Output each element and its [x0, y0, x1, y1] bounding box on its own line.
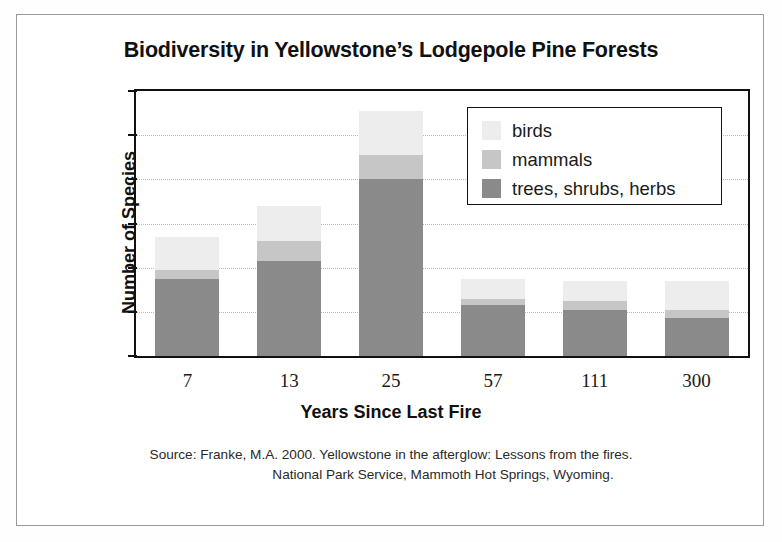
y-axis-tick-mark: [128, 134, 137, 136]
bar-segment-trees[interactable]: [155, 279, 219, 356]
bar-segment-trees[interactable]: [563, 310, 627, 356]
bar-segment-trees[interactable]: [257, 261, 321, 356]
chart-legend: birdsmammalstrees, shrubs, herbs: [467, 107, 722, 205]
bar-segment-mammals[interactable]: [257, 241, 321, 261]
y-axis-tick-mark: [128, 223, 137, 225]
bar-group[interactable]: [257, 91, 321, 356]
y-axis-tick-mark: [128, 178, 137, 180]
x-axis-tick-label: 57: [453, 370, 533, 392]
bar-segment-birds[interactable]: [359, 111, 423, 155]
bar-segment-trees[interactable]: [665, 318, 729, 356]
bar-segment-birds[interactable]: [257, 206, 321, 241]
bar-segment-mammals[interactable]: [359, 155, 423, 179]
legend-label: birds: [512, 120, 552, 142]
bar-segment-birds[interactable]: [563, 281, 627, 301]
legend-label: trees, shrubs, herbs: [512, 178, 676, 200]
source-line-1: Source: Franke, M.A. 2000. Yellowstone i…: [150, 447, 633, 462]
bar-segment-mammals[interactable]: [155, 270, 219, 279]
gridline: [137, 268, 748, 269]
legend-label: mammals: [512, 149, 592, 171]
bar-segment-trees[interactable]: [461, 305, 525, 356]
x-axis-tick-label: 7: [147, 370, 227, 392]
bar-segment-mammals[interactable]: [665, 310, 729, 319]
legend-swatch-icon: [482, 121, 501, 140]
bar-segment-mammals[interactable]: [563, 301, 627, 310]
legend-item[interactable]: mammals: [482, 146, 709, 173]
bar-segment-mammals[interactable]: [461, 299, 525, 306]
legend-swatch-icon: [482, 179, 501, 198]
stacked-bar[interactable]: [155, 237, 219, 356]
chart-page: Biodiversity in Yellowstone’s Lodgepole …: [0, 0, 782, 542]
y-axis-tick-mark: [128, 90, 137, 92]
legend-swatch-icon: [482, 150, 501, 169]
gridline: [137, 224, 748, 225]
legend-item[interactable]: birds: [482, 117, 709, 144]
stacked-bar[interactable]: [359, 111, 423, 356]
legend-item[interactable]: trees, shrubs, herbs: [482, 175, 709, 202]
x-axis-tick-label: 25: [351, 370, 431, 392]
stacked-bar[interactable]: [257, 206, 321, 356]
y-axis-tick-mark: [128, 355, 137, 357]
x-axis-tick-label: 300: [657, 370, 737, 392]
x-axis-tick-label: 13: [249, 370, 329, 392]
bar-group[interactable]: [359, 91, 423, 356]
source-note: Source: Franke, M.A. 2000. Yellowstone i…: [0, 445, 782, 486]
stacked-bar[interactable]: [461, 279, 525, 356]
gridline: [137, 312, 748, 313]
bar-segment-birds[interactable]: [155, 237, 219, 270]
y-axis-tick-mark: [128, 311, 137, 313]
bar-segment-birds[interactable]: [461, 279, 525, 299]
stacked-bar[interactable]: [563, 281, 627, 356]
bar-segment-birds[interactable]: [665, 281, 729, 310]
stacked-bar[interactable]: [665, 281, 729, 356]
bar-segment-trees[interactable]: [359, 179, 423, 356]
x-axis-tick-label: 111: [555, 370, 635, 392]
y-axis-tick-mark: [128, 267, 137, 269]
source-line-2: National Park Service, Mammoth Hot Sprin…: [0, 465, 782, 485]
page-title: Biodiversity in Yellowstone’s Lodgepole …: [0, 38, 782, 63]
x-axis-title: Years Since Last Fire: [0, 402, 782, 423]
y-axis-title: Number of Species: [119, 151, 140, 314]
bar-group[interactable]: [155, 91, 219, 356]
